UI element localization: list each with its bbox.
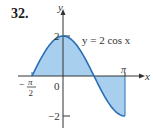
x-axis-label: x bbox=[144, 70, 150, 82]
neg-sign: − bbox=[19, 79, 25, 90]
x-tick-label-pi: π bbox=[121, 64, 127, 75]
y-tick-label-neg2: −2 bbox=[48, 110, 60, 122]
pi-denominator: 2 bbox=[29, 88, 34, 98]
equation-label: y = 2 cos x bbox=[82, 34, 131, 46]
y-tick-label-2: 2 bbox=[54, 30, 60, 42]
cosine-graph: y x y = 2 cos x 2 −2 0 π − π 2 bbox=[0, 0, 153, 136]
pi-numerator: π bbox=[28, 77, 33, 87]
origin-label: 0 bbox=[54, 80, 60, 92]
y-axis-label: y bbox=[57, 1, 63, 13]
